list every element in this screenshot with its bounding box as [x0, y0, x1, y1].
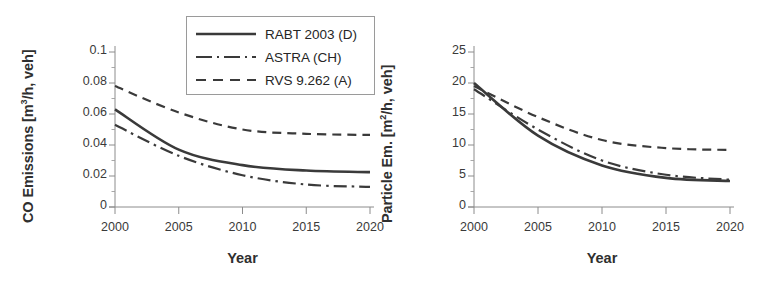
- y-tick-label: 0: [408, 198, 466, 212]
- y-tick-label: 0: [49, 198, 107, 212]
- series-line: [115, 109, 370, 172]
- legend-label-astra: ASTRA (CH): [265, 50, 342, 65]
- y-tick-label: 0.08: [49, 74, 107, 88]
- x-tick-label: 2015: [276, 220, 336, 234]
- x-axis-title-year-right: Year: [434, 250, 770, 266]
- x-tick-label: 2020: [700, 220, 760, 234]
- y-tick-label: 20: [408, 74, 466, 88]
- series-line: [474, 83, 730, 181]
- y-tick-label: 0.02: [49, 167, 107, 181]
- chart-panel-particle-emissions: Particle Em. [m2/h, veh] Year 0510152025…: [389, 0, 778, 286]
- legend-item-rabt: RABT 2003 (D): [187, 22, 374, 46]
- y-tick-label: 5: [408, 167, 466, 181]
- y-tick-label: 0.06: [49, 105, 107, 119]
- x-tick-label: 2005: [149, 220, 209, 234]
- legend-label-rabt: RABT 2003 (D): [265, 27, 357, 42]
- y-tick-label: 10: [408, 136, 466, 150]
- chart-panel-co-emissions: CO Emissions [m3/h, veh] Year RABT 2003 …: [0, 0, 389, 286]
- y-tick-label: 15: [408, 105, 466, 119]
- figure-container: CO Emissions [m3/h, veh] Year RABT 2003 …: [0, 0, 778, 286]
- y-tick-label: 0.1: [49, 43, 107, 57]
- x-tick-label: 2015: [636, 220, 696, 234]
- y-axis-title-co: CO Emissions [m3/h, veh]: [19, 50, 36, 223]
- y-tick-label: 25: [408, 43, 466, 57]
- x-tick-label: 2000: [85, 220, 145, 234]
- x-tick-label: 2010: [213, 220, 273, 234]
- legend: RABT 2003 (D) ASTRA (CH) RVS 9.262 (A): [186, 16, 375, 95]
- legend-item-astra: ASTRA (CH): [187, 45, 374, 69]
- legend-item-rvs: RVS 9.262 (A): [187, 68, 374, 92]
- x-tick-label: 2010: [572, 220, 632, 234]
- solid-line-swatch: [195, 27, 257, 41]
- y-axis-title-particle: Particle Em. [m2/h, veh]: [378, 65, 395, 223]
- legend-label-rvs: RVS 9.262 (A): [265, 73, 352, 88]
- y-tick-label: 0.04: [49, 136, 107, 150]
- dash-dot-line-swatch: [195, 50, 257, 64]
- dashed-line-swatch: [195, 73, 257, 87]
- x-tick-label: 2000: [444, 220, 504, 234]
- series-line: [474, 86, 730, 150]
- x-tick-label: 2005: [508, 220, 568, 234]
- x-axis-title-year-left: Year: [75, 250, 410, 266]
